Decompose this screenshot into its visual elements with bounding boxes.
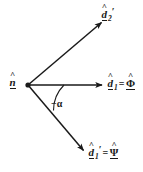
hat-accent-d1: ^	[107, 72, 114, 81]
label-d2-prime: ^ d 2′	[101, 7, 115, 23]
d2-prime-mark: ′	[112, 6, 115, 17]
psi-symbol: ^ Ψ	[109, 147, 119, 159]
d1-prime-symbol: ^ d	[88, 147, 95, 159]
label-d1-equals-phi: ^ d 1= ^ Φ	[107, 78, 136, 92]
vector-d1-prime-arrow	[28, 85, 84, 151]
d1-symbol: ^ d	[107, 78, 114, 90]
angle-alpha-symbol: α	[57, 98, 63, 109]
d1-subscript: 1	[114, 83, 118, 92]
d2-prime-symbol: ^ d	[101, 9, 108, 21]
hat-accent-n: ^	[9, 71, 16, 80]
hat-accent-d1-prime: ^	[88, 141, 95, 150]
label-angle-minus-alpha: −α	[51, 99, 62, 109]
vector-d2-prime-arrow	[28, 23, 102, 86]
n-hat-symbol: ^ n	[9, 77, 16, 89]
hat-accent-phi: ^	[125, 72, 135, 81]
label-n-hat: ^ n	[9, 77, 16, 89]
label-d1-prime-equals-psi: ^ d 1′= ^ Ψ	[88, 145, 119, 161]
hat-accent-psi: ^	[109, 141, 119, 150]
vector-diagram: ^ n ^ d 2′ ^ d 1= ^ Φ ^ d 1′= ^ Ψ −α	[0, 0, 143, 172]
d1-equals-sign: =	[119, 78, 125, 89]
phi-symbol: ^ Φ	[125, 78, 135, 90]
origin-dot	[25, 82, 30, 87]
d1-prime-mark: ′	[99, 144, 102, 155]
d1-prime-equals-sign: =	[103, 147, 109, 158]
hat-accent-d2: ^	[101, 3, 108, 12]
